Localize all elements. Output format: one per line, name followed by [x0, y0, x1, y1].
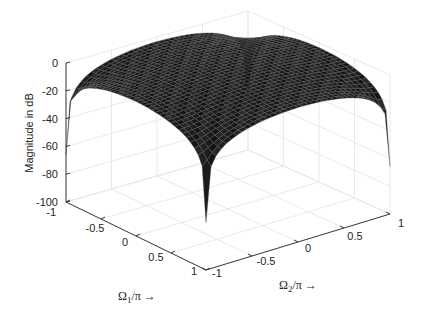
y-tick-0: -1	[212, 267, 222, 279]
z-tick-2: -40	[42, 113, 58, 125]
z-tick-1: -20	[42, 85, 58, 97]
z-tick-0: 0	[52, 57, 58, 69]
z-tick-labels: 0 -20 -40 -60 -80 -100	[36, 57, 58, 208]
y-axis-label: Ω2/π →	[279, 278, 317, 294]
x-tick-1: -0.5	[86, 222, 105, 234]
x-axis-label: Ω1/π →	[118, 289, 156, 305]
z-axis-label: Magnitude in dB	[23, 93, 35, 173]
z-tick-3: -60	[42, 140, 58, 152]
surface-mesh	[66, 33, 390, 223]
x-tick-labels: -1 -0.5 0 0.5 1	[46, 206, 197, 277]
z-tick-4: -80	[42, 168, 58, 180]
y-tick-1: -0.5	[257, 255, 276, 267]
y-tick-4: 1	[398, 217, 404, 229]
x-tick-2: 0	[122, 236, 128, 248]
y-tick-labels: -1 -0.5 0 0.5 1	[212, 217, 404, 279]
x-tick-3: 0.5	[148, 251, 163, 263]
y-tick-3: 0.5	[347, 230, 362, 242]
y-tick-2: 0	[305, 242, 311, 254]
x-tick-4: 1	[191, 265, 197, 277]
x-tick-0: -1	[46, 206, 56, 218]
surface-plot: 0 -20 -40 -60 -80 -100 -1 -0.5 0 0.5 1 -…	[0, 0, 423, 325]
